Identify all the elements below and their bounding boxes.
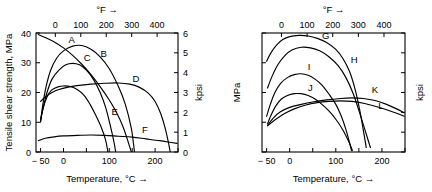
curve-label-B: B [101,48,107,59]
y-tick-label: 20 [21,88,31,98]
curve-label-A: A [69,34,76,45]
curve-label-K: K [372,84,379,95]
top-tick-label: 400 [150,20,165,30]
top-tick-label: 200 [99,20,114,30]
x-tick-label: 200 [148,156,163,166]
y-tick-label: 0 [26,148,31,158]
right-tick-label: 0 [183,148,188,158]
chart-svg-left: − 50010020001002003004000102030400123456… [0,0,216,192]
plot-frame [262,33,405,152]
top-tick-label: 0 [53,20,58,30]
chart-svg-right: − 5001002000100200300400GHIJKLTemperatur… [216,0,432,192]
curve-label-L: L [378,100,383,111]
top-tick-label: 400 [376,20,391,30]
top-tick-label: 300 [124,20,139,30]
curve-label-I: I [308,61,311,72]
x-tick-label: − 50 [258,156,276,166]
top-tick-label: 200 [325,20,340,30]
curve-F [38,135,177,143]
curve-G [267,35,367,147]
curves-group [38,34,177,152]
x-tick-label: 0 [61,156,66,166]
x-tick-label: 0 [287,156,292,166]
top-axis-title: °F → [96,4,118,15]
x-tick-label: 100 [102,156,117,166]
top-tick-label: 300 [351,20,366,30]
y-tick-label: 40 [21,29,31,39]
y-axis-title: MPa [231,82,242,102]
curve-label-H: H [351,54,358,65]
right-tick-label: 3 [183,88,188,98]
right-tick-label: 5 [183,48,188,58]
y-tick-label: 30 [21,58,31,68]
chart-panel-right: − 5001002000100200300400GHIJKLTemperatur… [216,0,432,192]
curve-C [41,63,116,152]
curve-label-E: E [112,106,118,117]
curve-label-D: D [132,73,139,84]
top-tick-label: 100 [300,20,315,30]
right-tick-label: 6 [183,29,188,39]
x-axis-title: Temperature, °C → [66,173,147,184]
top-tick-label: 0 [279,20,284,30]
x-axis-title: Temperature, °C → [293,173,374,184]
curves-group [267,35,404,150]
y-tick-label: 10 [21,118,31,128]
curve-E [41,86,108,152]
curve-label-G: G [322,30,329,41]
top-axis-title: °F → [323,4,345,15]
right-axis-title: kpsi [414,84,425,101]
curve-label-C: C [84,52,91,63]
figure-root: − 50010020001002003004000102030400123456… [0,0,432,192]
x-tick-label: − 50 [32,156,50,166]
right-tick-label: 1 [183,128,188,138]
y-axis-title: Tensile shear strength, MPa [3,33,14,151]
plot-frame [36,33,178,152]
top-tick-label: 100 [73,20,88,30]
chart-panel-left: − 50010020001002003004000102030400123456… [0,0,216,192]
right-tick-label: 4 [183,68,188,78]
curve-label-F: F [142,124,148,135]
right-axis-title: kpsi [193,84,204,101]
x-tick-label: 100 [328,156,343,166]
x-tick-label: 200 [374,156,389,166]
right-tick-label: 2 [183,108,188,118]
curve-label-J: J [308,82,313,93]
